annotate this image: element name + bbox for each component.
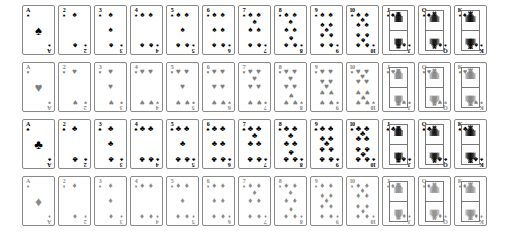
corner-index-bottom-right: 3♠ <box>118 43 125 54</box>
playing-card[interactable]: 6♥6♥♥♥♥♥♥♥ <box>202 62 235 112</box>
playing-card[interactable]: 2♠2♠♠♠ <box>58 5 91 55</box>
playing-card[interactable]: J♠J♠♠♠ <box>382 5 415 55</box>
playing-card[interactable]: 4♥4♥♥♥♥♥ <box>130 62 163 112</box>
suit-pip-icon: ♥ <box>27 70 30 75</box>
suit-pip-icon: ♦ <box>327 182 335 190</box>
playing-card[interactable]: 4♦4♦♦♦♦♦ <box>130 176 163 226</box>
playing-card[interactable]: K♠K♠♠♠ <box>454 5 487 55</box>
suit-pip-icon: ♣ <box>26 127 29 132</box>
playing-card[interactable]: 8♦8♦♦♦♦♦♦♦♦♦ <box>274 176 307 226</box>
pip-field: ♦♦♦♦♦♦ <box>211 180 226 222</box>
card-deck-grid: A♠A♠♠2♠2♠♠♠3♠3♠♠♠♠4♠4♠♠♠♠♠5♠5♠♠♠♠♠♠6♠6♠♠… <box>22 5 487 226</box>
suit-pip-icon: ♦ <box>107 182 115 190</box>
pip-field: ♦♦♦♦♦♦♦♦♦♦ <box>355 180 370 222</box>
suit-pip-icon: ♣ <box>278 127 281 132</box>
playing-card[interactable]: 3♥3♥♥♥♥ <box>94 62 127 112</box>
playing-card[interactable]: A♥A♥♥ <box>22 62 55 112</box>
court-divider <box>426 87 443 88</box>
playing-card[interactable]: 9♣9♣♣♣♣♣♣♣♣♣♣ <box>310 119 343 169</box>
playing-card[interactable]: A♠A♠♠ <box>22 5 55 55</box>
playing-card[interactable]: 10♥10♥♥♥♥♥♥♥♥♥♥♥ <box>346 62 379 112</box>
suit-pip-icon: ♦ <box>282 197 290 205</box>
suit-pip-icon: ♠ <box>120 43 123 48</box>
pip-field: ♠♠♠♠♠ <box>175 9 190 51</box>
suit-pip-icon: ♣ <box>299 157 302 162</box>
playing-card[interactable]: K♦K♦♦♦ <box>454 176 487 226</box>
playing-card[interactable]: 7♣7♣♣♣♣♣♣♣♣ <box>238 119 271 169</box>
playing-card[interactable]: K♥K♥♥♥ <box>454 62 487 112</box>
playing-card[interactable]: J♣J♣♣♣ <box>382 119 415 169</box>
suit-pip-icon: ♦ <box>183 182 191 190</box>
playing-card[interactable]: 3♠3♠♠♠♠ <box>94 5 127 55</box>
playing-card[interactable]: 10♣10♣♣♣♣♣♣♣♣♣♣♣ <box>346 119 379 169</box>
playing-card[interactable]: J♥J♥♥♥ <box>382 62 415 112</box>
playing-card[interactable]: 8♣8♣♣♣♣♣♣♣♣♣ <box>274 119 307 169</box>
suit-pip-icon: ♣ <box>183 125 191 133</box>
suit-pip-icon: ♦ <box>427 182 431 189</box>
suit-pip-icon: ♦ <box>327 212 335 220</box>
playing-card[interactable]: 3♦3♦♦♦♦ <box>94 176 127 226</box>
pip-field: ♠♠♠♠♠♠♠♠♠♠ <box>355 9 370 51</box>
suit-pip-icon: ♦ <box>99 184 102 189</box>
suit-pip-icon: ♠ <box>318 41 326 49</box>
suit-pip-icon: ♠ <box>391 11 395 18</box>
suit-pip-icon: ♠ <box>336 43 339 48</box>
playing-card[interactable]: A♦A♦♦ <box>22 176 55 226</box>
playing-card[interactable]: 5♦5♦♦♦♦♦♦ <box>166 176 199 226</box>
playing-card[interactable]: 8♠8♠♠♠♠♠♠♠♠♠ <box>274 5 307 55</box>
pip-field: ♣♣♣♣♣♣♣♣♣♣ <box>355 123 370 165</box>
suit-pip-icon: ♣ <box>291 140 299 148</box>
suit-pip-icon: ♦ <box>156 214 159 219</box>
pip-field: ♠♠ <box>67 9 82 51</box>
suit-pip-icon: ♦ <box>444 214 447 219</box>
playing-card[interactable]: 8♥8♥♥♥♥♥♥♥♥♥ <box>274 62 307 112</box>
playing-card[interactable]: J♦J♦♦♦ <box>382 176 415 226</box>
suit-pip-icon: ♥ <box>318 68 326 76</box>
suit-pip-icon: ♠ <box>480 43 483 48</box>
playing-card[interactable]: 2♦2♦♦♦ <box>58 176 91 226</box>
playing-card[interactable]: 2♣2♣♣♣ <box>58 119 91 169</box>
playing-card[interactable]: 6♣6♣♣♣♣♣♣♣ <box>202 119 235 169</box>
suit-pip-icon: ♦ <box>219 197 227 205</box>
suit-pip-icon: ♥ <box>71 68 79 76</box>
playing-card[interactable]: 4♠4♠♠♠♠♠ <box>130 5 163 55</box>
court-half-top: ♠ <box>390 11 407 31</box>
suit-pip-icon: ♣ <box>327 155 335 163</box>
playing-card[interactable]: 3♣3♣♣♣♣ <box>94 119 127 169</box>
pip-field: ♣♣♣ <box>103 123 118 165</box>
suit-pip-icon: ♣ <box>219 125 227 133</box>
suit-pip-icon: ♠ <box>246 41 254 49</box>
playing-card[interactable]: Q♣Q♣♣♣ <box>418 119 451 169</box>
playing-card[interactable]: Q♦Q♦♦♦ <box>418 176 451 226</box>
playing-card[interactable]: 6♠6♠♠♠♠♠♠♠ <box>202 5 235 55</box>
suit-pip-icon: ♦ <box>71 182 79 190</box>
playing-card[interactable]: 7♦7♦♦♦♦♦♦♦♦ <box>238 176 271 226</box>
playing-card[interactable]: A♣A♣♣ <box>22 119 55 169</box>
playing-card[interactable]: 5♥5♥♥♥♥♥♥ <box>166 62 199 112</box>
suit-pip-icon: ♦ <box>219 212 227 220</box>
playing-card[interactable]: 9♠9♠♠♠♠♠♠♠♠♠♠ <box>310 5 343 55</box>
suit-pip-icon: ♦ <box>438 213 442 220</box>
suit-pip-icon: ♣ <box>210 140 218 148</box>
court-divider <box>390 144 407 145</box>
playing-card[interactable]: 4♣4♣♣♣♣♣ <box>130 119 163 169</box>
playing-card[interactable]: 6♦6♦♦♦♦♦♦♦ <box>202 176 235 226</box>
suit-pip-icon: ♣ <box>155 157 158 162</box>
playing-card[interactable]: K♣K♣♣♣ <box>454 119 487 169</box>
playing-card[interactable]: 10♦10♦♦♦♦♦♦♦♦♦♦♦ <box>346 176 379 226</box>
suit-pip-icon: ♣ <box>210 125 218 133</box>
court-card-illustration: ♠♠ <box>389 10 408 51</box>
playing-card[interactable]: 9♦9♦♦♦♦♦♦♦♦♦♦ <box>310 176 343 226</box>
playing-card[interactable]: Q♠Q♠♠♠ <box>418 5 451 55</box>
court-divider <box>462 30 479 31</box>
playing-card[interactable]: 2♥2♥♥♥ <box>58 62 91 112</box>
playing-card[interactable]: 7♥7♥♥♥♥♥♥♥♥ <box>238 62 271 112</box>
playing-card[interactable]: 10♠10♠♠♠♠♠♠♠♠♠♠♠ <box>346 5 379 55</box>
playing-card[interactable]: 7♠7♠♠♠♠♠♠♠♠ <box>238 5 271 55</box>
suit-pip-icon: ♣ <box>32 138 45 151</box>
playing-card[interactable]: 5♠5♠♠♠♠♠♠ <box>166 5 199 55</box>
playing-card[interactable]: 9♥9♥♥♥♥♥♥♥♥♥♥ <box>310 62 343 112</box>
playing-card[interactable]: Q♥Q♥♥♥ <box>418 62 451 112</box>
pip-field: ♣ <box>31 123 46 165</box>
playing-card[interactable]: 5♣5♣♣♣♣♣♣ <box>166 119 199 169</box>
